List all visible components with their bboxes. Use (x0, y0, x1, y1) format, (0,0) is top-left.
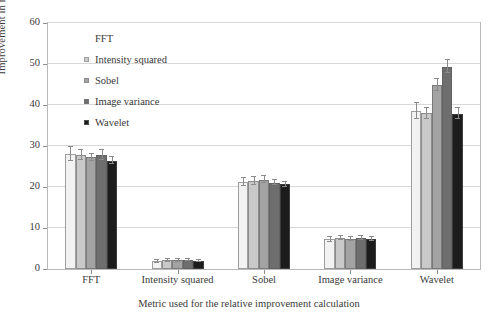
error-bar-cap (251, 176, 256, 177)
error-bar-cap (175, 258, 180, 259)
bar (86, 157, 96, 269)
error-bar-cap (445, 72, 450, 73)
legend-title-label: FFT (95, 33, 113, 44)
bar (442, 67, 452, 269)
error-bar-cap (424, 118, 429, 119)
error-bar-cap (185, 260, 190, 261)
legend-title-row: FFT (84, 28, 204, 49)
error-bar-cap (241, 177, 246, 178)
bar (76, 155, 86, 269)
legend-swatch (84, 57, 89, 62)
error-bar-cap (241, 185, 246, 186)
bar (96, 155, 106, 269)
legend-title-swatch (84, 36, 89, 41)
x-tick-label: FFT (82, 274, 100, 285)
bar (238, 182, 248, 269)
error-bar-cap (68, 160, 73, 161)
legend-label: Wavelet (95, 117, 129, 128)
bar (280, 184, 290, 269)
x-tick-label: Image variance (318, 274, 382, 285)
error-bar-cap (89, 160, 94, 161)
error-bar-cap (414, 102, 419, 103)
error-bar-cap (109, 163, 114, 164)
bar (183, 260, 193, 269)
error-bar-cap (282, 181, 287, 182)
error-bar-cap (327, 236, 332, 237)
bar (162, 260, 172, 269)
error-bar-cap (445, 59, 450, 60)
bar (366, 239, 376, 269)
bar-group (324, 23, 376, 269)
y-tick-label: 30 (18, 139, 40, 150)
bar-group (411, 23, 463, 269)
y-tick-label: 0 (18, 262, 40, 273)
error-bar-cap (338, 239, 343, 240)
x-axis-label: Metric used for the relative improvement… (0, 298, 498, 309)
error-bar-cap (196, 261, 201, 262)
bar (269, 183, 279, 270)
error-bar-cap (282, 186, 287, 187)
legend-item: Image variance (84, 91, 204, 112)
bar (172, 260, 182, 269)
error-bar-cap (68, 146, 73, 147)
legend: FFT Intensity squaredSobelImage variance… (84, 28, 204, 133)
x-tick-label: Intensity squared (142, 274, 214, 285)
x-tick-label: Sobel (252, 274, 276, 285)
bar (335, 238, 345, 269)
error-bar-cap (78, 149, 83, 150)
error-bar-cap (358, 235, 363, 236)
error-bar (70, 147, 71, 161)
y-tick-label: 40 (18, 98, 40, 109)
error-bar-cap (272, 184, 277, 185)
bar (421, 113, 431, 269)
error-bar (416, 103, 417, 119)
y-tick-label: 50 (18, 57, 40, 68)
y-tick-label: 10 (18, 221, 40, 232)
legend-label: Sobel (95, 75, 119, 86)
error-bar-cap (369, 240, 374, 241)
error-bar-cap (338, 235, 343, 236)
error-bar-cap (455, 107, 460, 108)
y-tick-label: 20 (18, 180, 40, 191)
error-bar-cap (348, 240, 353, 241)
legend-item: Intensity squared (84, 49, 204, 70)
bar (452, 114, 462, 269)
y-tick-label: 60 (18, 16, 40, 27)
error-bar-cap (261, 182, 266, 183)
error-bar-cap (165, 261, 170, 262)
bar-chart-figure: Improvement in metric (%) 0102030405060 … (0, 0, 498, 324)
error-bar-cap (175, 261, 180, 262)
legend-label: Image variance (95, 96, 159, 107)
error-bar-cap (327, 241, 332, 242)
legend-swatch (84, 120, 89, 125)
bar (65, 154, 75, 269)
legend-swatch (84, 78, 89, 83)
y-axis-label: Improvement in metric (%) (0, 0, 7, 95)
bar (411, 111, 421, 269)
error-bar-cap (434, 90, 439, 91)
error-bar-cap (109, 156, 114, 157)
error-bar-cap (251, 184, 256, 185)
error-bar-cap (154, 259, 159, 260)
bar (193, 261, 203, 269)
bar (248, 181, 258, 269)
error-bar-cap (154, 262, 159, 263)
error-bar-cap (424, 107, 429, 108)
error-bar-cap (434, 78, 439, 79)
error-bar-cap (272, 179, 277, 180)
legend-item: Wavelet (84, 112, 204, 133)
x-tick-label: Wavelet (420, 274, 454, 285)
legend-swatch (84, 99, 89, 104)
error-bar-cap (89, 153, 94, 154)
error-bar-cap (185, 258, 190, 259)
bar (345, 239, 355, 269)
error-bar-cap (99, 149, 104, 150)
error-bar-cap (99, 159, 104, 160)
error-bar-cap (165, 258, 170, 259)
bar (259, 180, 269, 269)
error-bar-cap (348, 236, 353, 237)
bar (356, 238, 366, 269)
bar (432, 85, 442, 269)
error-bar-cap (455, 118, 460, 119)
bar-group (238, 23, 290, 269)
